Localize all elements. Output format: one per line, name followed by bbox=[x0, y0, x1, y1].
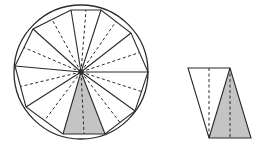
radius-line bbox=[15, 66, 81, 72]
diagram-svg bbox=[0, 0, 266, 150]
apothem-line bbox=[81, 22, 116, 73]
radius-line bbox=[71, 10, 81, 72]
radius-line bbox=[81, 33, 131, 72]
apothem-line bbox=[24, 48, 81, 73]
shaded-triangle bbox=[63, 72, 105, 134]
apothem-line bbox=[81, 72, 142, 92]
center-point bbox=[79, 70, 82, 73]
apothem-line bbox=[21, 72, 82, 87]
radius-line bbox=[33, 29, 81, 72]
apothem-line bbox=[81, 53, 140, 73]
circle-decagon-figure bbox=[14, 5, 148, 139]
diagram-canvas bbox=[0, 0, 266, 150]
radius-line bbox=[81, 10, 101, 72]
rearranged-triangles-figure bbox=[188, 68, 251, 138]
